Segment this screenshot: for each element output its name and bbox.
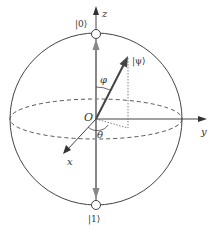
- pole-zero-marker: [92, 30, 101, 39]
- x-axis-label: x: [67, 157, 73, 167]
- psi-projection-horizontal: [96, 119, 128, 128]
- psi-vector-arrowhead-icon: [120, 56, 129, 68]
- state-psi-label: |ψ⟩: [132, 57, 146, 66]
- state-zero-label: |0⟩: [75, 20, 87, 29]
- pole-one-marker: [92, 201, 101, 210]
- origin-label: O: [84, 112, 93, 123]
- z-axis-arrowhead-icon: [93, 6, 99, 15]
- pole-arrow-up-head-icon: [93, 39, 100, 50]
- y-axis-arrowhead-icon: [198, 116, 207, 122]
- phi-angle-arc: [96, 87, 110, 90]
- psi-vector-line: [96, 64, 124, 119]
- z-axis-label: z: [102, 9, 107, 19]
- pole-arrow-down-head-icon: [93, 188, 100, 199]
- theta-label: θ: [97, 130, 103, 140]
- state-one-label: |1⟩: [88, 215, 100, 224]
- bloch-sphere-diagram: [0, 0, 214, 232]
- phi-label: φ: [100, 75, 107, 85]
- y-axis-label: y: [201, 127, 207, 137]
